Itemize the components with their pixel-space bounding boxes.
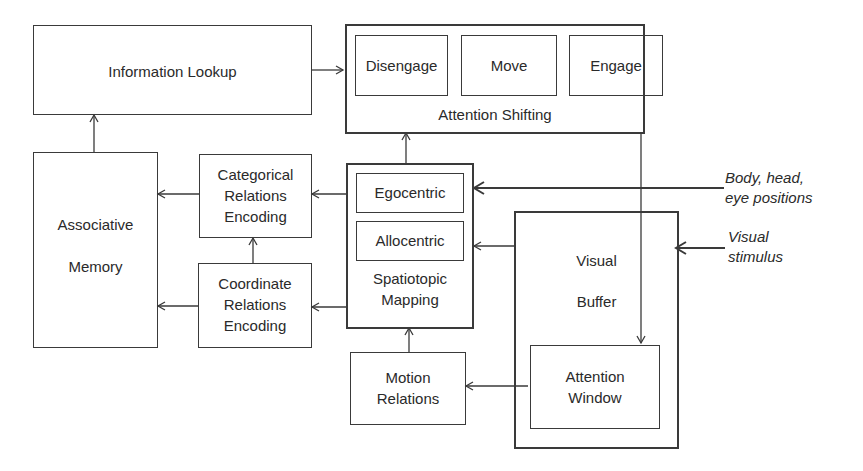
egocentric-label: Egocentric: [357, 183, 463, 203]
spatiotopic-label-2: Mapping: [348, 290, 472, 310]
coordinate-label-3: Encoding: [199, 316, 311, 336]
allocentric-box[interactable]: Allocentric: [356, 221, 464, 261]
motion-relations-box[interactable]: Motion Relations: [350, 352, 466, 425]
visual-stimulus-label-2: stimulus: [728, 247, 783, 267]
attention-shifting-box[interactable]: Disengage Move Engage Attention Shifting: [345, 24, 645, 134]
coordinate-label-2: Relations: [199, 295, 311, 315]
coordinate-relations-box[interactable]: Coordinate Relations Encoding: [198, 263, 312, 348]
engage-label: Engage: [570, 56, 662, 76]
associative-label: Associative: [34, 215, 157, 235]
memory-label: Memory: [34, 257, 157, 277]
visual-buffer-label-2: Buffer: [516, 292, 677, 312]
associative-memory-box[interactable]: Associative Memory: [33, 152, 158, 348]
spatiotopic-label-1: Spatiotopic: [348, 269, 472, 289]
body-head-eye-label-1: Body, head,: [725, 168, 804, 188]
categorical-label-2: Relations: [200, 186, 311, 206]
allocentric-label: Allocentric: [357, 231, 463, 251]
coordinate-label-1: Coordinate: [199, 274, 311, 294]
disengage-label: Disengage: [356, 56, 447, 76]
visual-buffer-box[interactable]: Visual Buffer Attention Window: [514, 211, 679, 449]
categorical-label-3: Encoding: [200, 207, 311, 227]
egocentric-box[interactable]: Egocentric: [356, 173, 464, 213]
attention-shifting-label: Attention Shifting: [347, 105, 643, 125]
attention-window-label-1: Attention: [531, 367, 659, 387]
motion-label-2: Relations: [351, 389, 465, 409]
body-head-eye-label-2: eye positions: [725, 188, 813, 208]
engage-box[interactable]: Engage: [569, 35, 663, 96]
categorical-label-1: Categorical: [200, 165, 311, 185]
move-box[interactable]: Move: [461, 35, 557, 96]
visual-stimulus-label-1: Visual: [728, 227, 769, 247]
visual-buffer-label-1: Visual: [516, 251, 677, 271]
disengage-box[interactable]: Disengage: [355, 35, 448, 96]
attention-window-box[interactable]: Attention Window: [530, 345, 660, 429]
information-lookup-label: Information Lookup: [34, 62, 311, 82]
move-label: Move: [462, 56, 556, 76]
attention-window-label-2: Window: [531, 388, 659, 408]
motion-label-1: Motion: [351, 368, 465, 388]
spatiotopic-mapping-box[interactable]: Egocentric Allocentric Spatiotopic Mappi…: [346, 163, 474, 329]
categorical-relations-box[interactable]: Categorical Relations Encoding: [199, 154, 312, 238]
information-lookup-box[interactable]: Information Lookup: [33, 25, 312, 115]
